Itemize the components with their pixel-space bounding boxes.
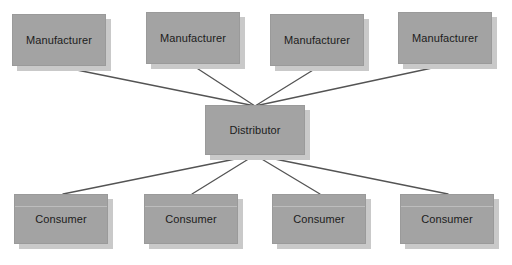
node-label-consumer-4: Consumer	[421, 213, 473, 225]
node-manufacturer-3[interactable]: Manufacturer	[270, 14, 364, 66]
node-consumer-3[interactable]: Consumer	[272, 194, 366, 244]
node-manufacturer-2[interactable]: Manufacturer	[146, 12, 240, 64]
link-consumer-4	[255, 155, 448, 194]
node-consumer-4[interactable]: Consumer	[400, 194, 494, 244]
node-distributor[interactable]: Distributor	[205, 105, 305, 155]
link-manufacturer-4	[255, 65, 446, 106]
link-consumer-1	[63, 155, 255, 194]
node-manufacturer-1[interactable]: Manufacturer	[12, 14, 106, 66]
node-label-distributor: Distributor	[229, 124, 280, 136]
link-manufacturer-1	[62, 67, 255, 106]
node-label-consumer-1: Consumer	[35, 213, 87, 225]
link-manufacturer-3	[255, 67, 318, 106]
link-consumer-2	[192, 155, 255, 194]
node-consumer-1[interactable]: Consumer	[14, 194, 108, 244]
node-label-consumer-3: Consumer	[293, 213, 345, 225]
node-label-manufacturer-4: Manufacturer	[412, 32, 478, 44]
node-manufacturer-4[interactable]: Manufacturer	[398, 12, 492, 64]
node-label-consumer-2: Consumer	[165, 213, 217, 225]
node-label-manufacturer-3: Manufacturer	[284, 34, 350, 46]
link-manufacturer-2	[192, 65, 255, 106]
node-label-manufacturer-2: Manufacturer	[160, 32, 226, 44]
link-consumer-3	[255, 155, 320, 194]
node-consumer-2[interactable]: Consumer	[144, 194, 238, 244]
node-label-manufacturer-1: Manufacturer	[26, 34, 92, 46]
supply-chain-diagram: ManufacturerManufacturerManufacturerManu…	[0, 0, 512, 265]
